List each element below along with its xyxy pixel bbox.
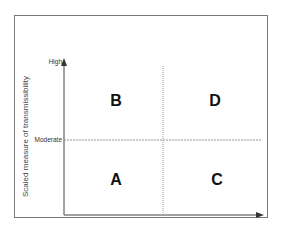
tick-high: High	[36, 58, 62, 65]
tick-moderate: Moderate	[22, 136, 62, 143]
quadrant-c: C	[202, 171, 232, 189]
x-axis-arrow-icon	[256, 212, 264, 218]
axes-and-dividers	[0, 0, 284, 231]
quadrant-a: A	[101, 171, 131, 189]
quadrant-d: D	[200, 92, 230, 110]
quadrant-b: B	[101, 92, 131, 110]
